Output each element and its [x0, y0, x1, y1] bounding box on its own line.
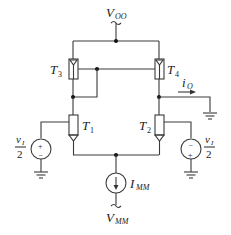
svg-text:v: v [16, 133, 21, 145]
diode-connection [73, 69, 97, 97]
left-ground-icon [34, 172, 48, 178]
svg-text:I: I [129, 176, 135, 191]
node-top [114, 39, 118, 43]
t3-label: T 3 [50, 62, 62, 79]
transistor-t1 [69, 97, 78, 155]
svg-text:MM: MM [114, 217, 130, 226]
svg-text:v: v [205, 133, 210, 145]
svg-text:2: 2 [147, 126, 151, 135]
svg-text:T: T [167, 62, 175, 77]
output-current-label: i O [182, 75, 193, 91]
current-source-label: I MM [129, 176, 151, 192]
svg-text:I: I [21, 139, 25, 147]
svg-text:−: − [189, 141, 194, 150]
output-ground-icon [203, 113, 217, 119]
svg-text:2: 2 [206, 148, 212, 160]
svg-text:T: T [139, 118, 147, 133]
right-source-label: v I 2 [204, 133, 215, 160]
svg-text:i: i [182, 75, 186, 90]
svg-text:+: + [188, 151, 193, 160]
svg-text:OO: OO [115, 12, 127, 21]
svg-text:−: − [39, 151, 44, 160]
t4-label: T 4 [167, 62, 179, 79]
current-source [106, 173, 126, 193]
svg-text:3: 3 [58, 70, 62, 79]
svg-text:I: I [210, 139, 214, 147]
left-source-label: v I 2 [15, 133, 26, 160]
supply-bottom-label: V MM [106, 210, 130, 226]
svg-text:1: 1 [90, 126, 94, 135]
t1-label: T 1 [82, 118, 94, 135]
svg-text:4: 4 [175, 70, 179, 79]
t2-label: T 2 [139, 118, 151, 135]
transistor-t4 [155, 41, 164, 97]
supply-top-label: V OO [106, 5, 127, 21]
svg-text:T: T [82, 118, 90, 133]
svg-text:+: + [38, 142, 43, 151]
transistor-t2 [155, 97, 164, 155]
t1-gate-wire [41, 122, 69, 138]
transistor-t3 [69, 41, 78, 97]
differential-amplifier-circuit: V OO T 3 T 4 i O [0, 0, 231, 235]
right-voltage-source: − + [181, 139, 201, 172]
svg-text:MM: MM [135, 183, 151, 192]
svg-text:2: 2 [17, 148, 23, 160]
left-voltage-source: + − [31, 139, 51, 172]
svg-text:T: T [50, 62, 58, 77]
t2-gate-wire [164, 122, 191, 138]
right-ground-icon [184, 172, 198, 178]
output-wire [159, 97, 210, 112]
